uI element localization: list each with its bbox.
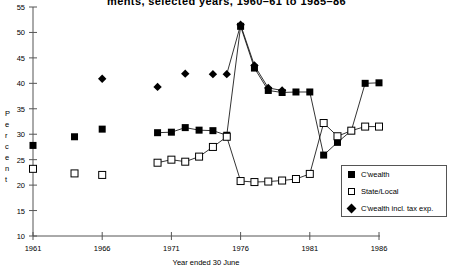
data-point-marker bbox=[182, 124, 189, 131]
data-point-marker bbox=[98, 75, 106, 83]
legend-label-cwealth: C'wealth bbox=[361, 170, 390, 179]
legend-label-state-local: State/Local bbox=[361, 187, 399, 196]
x-axis-tick-label: 1971 bbox=[163, 244, 180, 253]
filled-square-icon bbox=[348, 171, 355, 178]
data-point-marker bbox=[237, 178, 244, 185]
series-markers bbox=[30, 165, 106, 178]
x-axis-tick-label: 1981 bbox=[301, 244, 318, 253]
data-point-marker bbox=[182, 158, 189, 165]
data-point-marker bbox=[362, 123, 369, 130]
y-axis-tick-label: 35 bbox=[17, 105, 25, 114]
y-axis-tick-label: 50 bbox=[17, 28, 25, 37]
data-point-marker bbox=[376, 123, 383, 130]
filled-diamond-icon bbox=[347, 204, 357, 214]
y-axis-tick-label: 55 bbox=[17, 3, 25, 12]
data-point-marker bbox=[99, 126, 106, 133]
data-point-marker bbox=[30, 142, 37, 149]
data-point-marker bbox=[251, 179, 258, 186]
data-point-marker bbox=[292, 88, 299, 95]
y-axis-tick-label: 10 bbox=[17, 232, 25, 241]
data-point-marker bbox=[223, 70, 231, 78]
data-point-marker bbox=[154, 159, 161, 166]
data-point-marker bbox=[362, 80, 369, 87]
x-axis-tick-label: 1961 bbox=[25, 244, 42, 253]
y-axis-tick-label: 20 bbox=[17, 181, 25, 190]
data-point-marker bbox=[265, 178, 272, 185]
chart-legend: C'wealth State/Local C'wealth incl. tax … bbox=[341, 165, 447, 217]
data-point-marker bbox=[306, 170, 313, 177]
data-point-marker bbox=[320, 152, 327, 159]
data-point-marker bbox=[153, 83, 161, 91]
data-point-marker bbox=[209, 70, 217, 78]
y-axis-tick-label: 30 bbox=[17, 130, 25, 139]
data-point-marker bbox=[71, 170, 78, 177]
legend-label-cwealth-tax-exp: C'wealth incl. tax exp. bbox=[361, 204, 433, 213]
data-point-marker bbox=[30, 165, 37, 172]
data-point-marker bbox=[223, 133, 230, 140]
x-axis-tick-label: 1976 bbox=[232, 244, 249, 253]
series-line bbox=[227, 25, 282, 91]
data-point-marker bbox=[320, 120, 327, 127]
y-axis-tick-label: 15 bbox=[17, 207, 25, 216]
chart-plot-area: 1015202530354045505519611966197119761981… bbox=[0, 0, 453, 270]
series-markers bbox=[223, 21, 287, 95]
data-point-marker bbox=[209, 127, 216, 134]
y-axis-tick-label: 25 bbox=[17, 156, 25, 165]
data-point-marker bbox=[181, 69, 189, 77]
data-point-marker bbox=[168, 156, 175, 163]
data-point-marker bbox=[209, 143, 216, 150]
x-axis-title: Year ended 30 June bbox=[173, 258, 240, 267]
open-square-icon bbox=[348, 188, 355, 195]
data-point-marker bbox=[154, 129, 161, 136]
data-point-marker bbox=[292, 176, 299, 183]
data-point-marker bbox=[348, 127, 355, 134]
legend-item-cwealth-tax-exp: C'wealth incl. tax exp. bbox=[342, 200, 446, 217]
data-point-marker bbox=[279, 177, 286, 184]
data-point-marker bbox=[306, 88, 313, 95]
data-point-marker bbox=[71, 133, 78, 140]
data-point-marker bbox=[334, 133, 341, 140]
series-markers bbox=[98, 69, 217, 91]
data-point-marker bbox=[196, 127, 203, 134]
data-point-marker bbox=[99, 171, 106, 178]
legend-item-cwealth: C'wealth bbox=[342, 166, 446, 183]
y-axis-tick-label: 40 bbox=[17, 79, 25, 88]
y-axis-tick-label: 45 bbox=[17, 54, 25, 63]
x-axis-tick-label: 1966 bbox=[94, 244, 111, 253]
data-point-marker bbox=[168, 129, 175, 136]
data-point-marker bbox=[376, 79, 383, 86]
legend-item-state-local: State/Local bbox=[342, 183, 446, 200]
x-axis-tick-label: 1986 bbox=[371, 244, 388, 253]
series-markers bbox=[30, 126, 106, 149]
data-point-marker bbox=[196, 153, 203, 160]
chart-container: ments, selected years, 1960–61 to 1985–8… bbox=[0, 0, 453, 270]
